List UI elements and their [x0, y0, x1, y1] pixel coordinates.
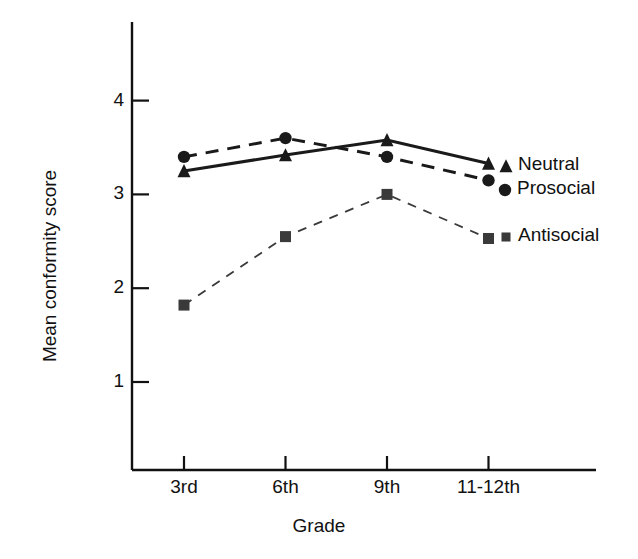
y-axis-title: Mean conformity score [39, 146, 61, 386]
x-tick-marks [184, 456, 489, 470]
data-point-prosocial-9th [381, 151, 393, 163]
data-point-prosocial-6th [279, 132, 291, 144]
legend-label-antisocial: Antisocial [518, 224, 599, 246]
x-axis-title: Grade [0, 515, 638, 537]
legend-label-prosocial: Prosocial [517, 177, 595, 199]
y-tick-marks [132, 101, 149, 382]
series-lines [184, 138, 489, 305]
series-line-prosocial [184, 138, 489, 180]
legend-marker-neutral [500, 159, 513, 172]
legend-marker-antisocial [501, 232, 510, 241]
y-tick-label: 2 [84, 276, 124, 298]
series-line-neutral [184, 140, 489, 171]
series-markers [178, 132, 496, 311]
data-point-antisocial-3rd [179, 300, 190, 311]
legend-markers [499, 159, 513, 241]
legend-marker-prosocial [499, 184, 511, 196]
x-tick-label: 11-12th [429, 476, 549, 498]
line-chart-figure: Mean conformity score Grade 1234 3rd6th9… [0, 0, 638, 559]
series-line-antisocial [184, 194, 489, 305]
y-tick-label: 3 [84, 182, 124, 204]
data-point-prosocial-11-12th [482, 174, 494, 186]
data-point-antisocial-11-12th [483, 233, 494, 244]
y-tick-label: 4 [84, 89, 124, 111]
y-tick-label: 1 [84, 370, 124, 392]
legend-label-neutral: Neutral [518, 153, 579, 175]
data-point-prosocial-3rd [178, 151, 190, 163]
data-point-antisocial-6th [280, 231, 291, 242]
data-point-antisocial-9th [382, 189, 393, 200]
